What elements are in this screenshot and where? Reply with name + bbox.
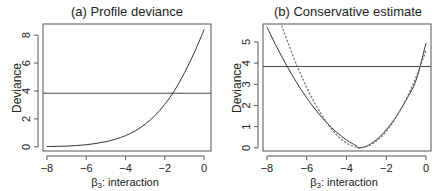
figure: (a) Profile deviance −8−6−4−20 02468 Dev… bbox=[0, 0, 447, 191]
panel-b-x-axis-label-text: : interaction bbox=[321, 176, 378, 188]
panel-b-series-conservative-quadratic bbox=[267, 27, 426, 148]
panel-b-y-axis-label: Deviance bbox=[230, 63, 244, 113]
panel-b-y-tick-label: 5 bbox=[240, 39, 252, 45]
panel-a-x-axis: −8−6−4−20 bbox=[41, 156, 208, 174]
panel-b: (b) Conservative estimate −8−6−4−20 0123… bbox=[230, 4, 431, 190]
panel-a-y-axis-label: Deviance bbox=[10, 63, 24, 113]
panel-a-y-tick-label: 0 bbox=[20, 144, 32, 150]
panel-a-series-profile-deviance bbox=[47, 30, 204, 147]
panel-b-title: (b) Conservative estimate bbox=[274, 4, 422, 19]
panel-b-y-tick-label: 0 bbox=[240, 145, 252, 151]
panel-a-y-tick-label: 8 bbox=[20, 32, 32, 38]
panel-a-title: (a) Profile deviance bbox=[71, 4, 183, 19]
panel-a-x-axis-label: β3: interaction bbox=[91, 176, 159, 190]
panel-a-marks bbox=[43, 30, 211, 147]
panel-a: (a) Profile deviance −8−6−4−20 02468 Dev… bbox=[10, 4, 211, 190]
panel-b-x-tick-label: 0 bbox=[423, 162, 429, 174]
panel-a-y-tick-label: 2 bbox=[20, 116, 32, 122]
panel-b-x-tick-label: −2 bbox=[380, 162, 393, 174]
panel-a-x-tick-label: −6 bbox=[80, 162, 93, 174]
panel-a-x-tick-label: −2 bbox=[159, 162, 172, 174]
panel-a-x-tick-label: −8 bbox=[41, 162, 54, 174]
panel-b-x-tick-label: −4 bbox=[340, 162, 353, 174]
panel-a-x-tick-label: −4 bbox=[119, 162, 132, 174]
panel-b-marks bbox=[263, 26, 431, 148]
panel-b-plot-frame bbox=[263, 24, 431, 151]
panel-b-series-quadratic-approximation bbox=[282, 26, 426, 148]
panel-b-x-axis-label: β3: interaction bbox=[310, 176, 378, 190]
panel-b-x-tick-label: −8 bbox=[261, 162, 274, 174]
panel-b-x-tick-label: −6 bbox=[300, 162, 313, 174]
panel-a-x-axis-label-text: : interaction bbox=[102, 176, 159, 188]
panel-b-y-tick-label: 1 bbox=[240, 124, 252, 130]
panel-a-plot-frame bbox=[43, 24, 211, 151]
panel-a-x-tick-label: 0 bbox=[201, 162, 207, 174]
panel-b-x-axis: −8−6−4−20 bbox=[261, 156, 429, 174]
